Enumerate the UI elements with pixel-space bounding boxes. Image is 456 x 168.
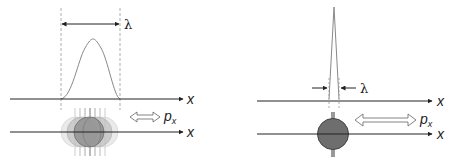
left-wavelength-label: λ [124, 17, 132, 32]
left-gaussian-curve [61, 39, 120, 99]
right-momentum-label: px [419, 111, 433, 129]
left-lower-axis-label: x [186, 124, 195, 140]
right-lower-axis-label: x [436, 126, 445, 142]
left-panel: λ x x px [10, 8, 195, 156]
uncertainty-diagram: λ x x px [0, 0, 456, 168]
left-momentum-label: px [163, 108, 177, 126]
right-upper-axis-label: x [436, 93, 445, 109]
right-panel: λ x x px [257, 7, 445, 157]
left-momentum-double-arrow [130, 112, 160, 122]
right-wavelength-label: λ [360, 81, 368, 96]
right-spike-curve [329, 7, 339, 99]
left-upper-axis-label: x [186, 91, 195, 107]
right-momentum-double-arrow [355, 114, 416, 126]
